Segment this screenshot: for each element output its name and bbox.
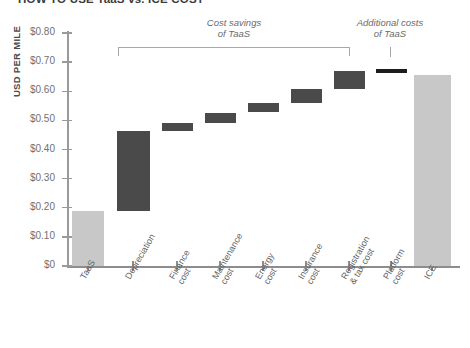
y-tick bbox=[62, 265, 72, 266]
bar-insurance-cost bbox=[291, 89, 322, 103]
bar-ice bbox=[414, 75, 451, 266]
y-tick-label: $0.50 bbox=[30, 113, 55, 124]
x-label-energy-cost: Energy cost bbox=[253, 251, 285, 286]
cost-savings-bracket-leg-right bbox=[349, 47, 350, 56]
cost-savings-bracket-leg-left bbox=[118, 47, 119, 56]
y-tick bbox=[62, 207, 72, 208]
x-label-registration-tax-cost: Registration & tax cost bbox=[339, 234, 380, 286]
bar-depreciation bbox=[117, 131, 150, 211]
additional-costs-pointer bbox=[390, 47, 391, 57]
y-tick bbox=[62, 178, 72, 179]
bar-energy-cost bbox=[248, 103, 279, 112]
y-tick-label: $0.20 bbox=[30, 201, 55, 212]
x-label-insurance-cost: Insurance cost bbox=[296, 242, 333, 286]
y-tick-label: $0.60 bbox=[30, 84, 55, 95]
y-tick-label: $0 bbox=[44, 259, 55, 270]
waterfall-chart: HOW TO USE TaaS vs. ICE COST USD PER MIL… bbox=[0, 0, 470, 348]
additional-costs-annotation: Additional costs of TaaS bbox=[332, 17, 448, 39]
y-tick-label: $0.70 bbox=[30, 55, 55, 66]
y-tick-label: $0.10 bbox=[30, 230, 55, 241]
cost-savings-bracket-top bbox=[118, 47, 350, 48]
y-tick bbox=[62, 149, 72, 150]
y-tick bbox=[62, 32, 72, 33]
y-tick bbox=[62, 61, 72, 62]
cost-savings-annotation: Cost savings of TaaS bbox=[176, 17, 292, 39]
y-tick bbox=[62, 120, 72, 121]
x-label-depreciation: Depreciation bbox=[123, 232, 157, 281]
y-tick bbox=[62, 236, 72, 237]
x-label-maintenance-cost: Maintenance cost bbox=[210, 231, 253, 286]
bar-platform-cost bbox=[376, 69, 407, 73]
y-tick bbox=[62, 91, 72, 92]
y-tick-label: $0.80 bbox=[30, 26, 55, 37]
y-tick-label: $0.30 bbox=[30, 172, 55, 183]
bar-finance-cost bbox=[162, 123, 193, 131]
y-tick-label: $0.40 bbox=[30, 143, 55, 154]
bar-maintenance-cost bbox=[205, 113, 236, 123]
bar-registration-tax-cost bbox=[334, 71, 365, 89]
y-axis-labels: $0.80$0.70$0.60$0.50$0.40$0.30$0.20$0.10… bbox=[0, 0, 63, 348]
